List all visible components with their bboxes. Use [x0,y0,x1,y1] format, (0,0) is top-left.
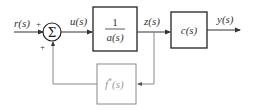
feedback-block-label: f*(s) [105,77,124,91]
output-block: c(s) [171,12,207,48]
plus-sign-bottom: + [40,42,45,52]
input-label: r(s) [14,17,30,30]
intermediate-label: z(s) [143,15,160,28]
plant-denominator: a(s) [106,31,123,44]
input-signal: r(s) + [14,17,43,32]
plus-sign-top: + [36,19,41,29]
plant-block: 1 a(s) [93,7,137,51]
sigma-symbol: Σ [48,26,56,40]
feedback-arrow-icon [137,82,142,86]
feedback-return-arrow-icon [51,41,55,46]
plant-numerator: 1 [112,16,118,28]
output-label: y(s) [216,13,234,26]
feedback-pickoff-line [138,32,154,84]
control-label: u(s) [70,15,87,28]
block-diagram: r(s) + Σ + u(s) 1 a(s) z(s) c(s) y(s) f*… [0,0,255,111]
feedback-return-line [53,42,97,84]
output-block-label: c(s) [181,24,198,37]
summing-junction: Σ + [40,23,61,52]
